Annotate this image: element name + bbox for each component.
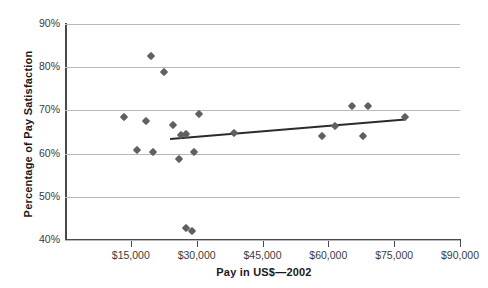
- x-tick-mark: [460, 241, 461, 247]
- y-axis-title: Percentage of Pay Satisfaction: [22, 14, 34, 254]
- y-tick-label: 60%: [20, 147, 60, 159]
- x-tick-label: $45,000: [228, 249, 298, 261]
- y-tick-label: 80%: [20, 60, 60, 72]
- x-tick-label: $75,000: [359, 249, 429, 261]
- x-tick-label: $90,000: [425, 249, 488, 261]
- x-tick-label: $60,000: [293, 249, 363, 261]
- gridline-y: [65, 24, 460, 25]
- x-axis-title: Pay in US$—2002: [0, 266, 488, 278]
- x-tick-mark: [394, 241, 395, 247]
- y-tick-label: 50%: [20, 190, 60, 202]
- x-tick-mark: [131, 241, 132, 247]
- gridline-y: [65, 110, 460, 111]
- x-tick-label: $15,000: [96, 249, 166, 261]
- gridline-y: [65, 154, 460, 155]
- x-tick-mark: [328, 241, 329, 247]
- x-tick-mark: [197, 241, 198, 247]
- gridline-y: [65, 197, 460, 198]
- scatter-chart: Percentage of Pay Satisfaction Pay in US…: [0, 0, 488, 288]
- y-tick-label: 70%: [20, 103, 60, 115]
- y-tick-label: 40%: [20, 233, 60, 245]
- gridline-y: [65, 67, 460, 68]
- x-tick-mark: [263, 241, 264, 247]
- x-tick-label: $30,000: [162, 249, 232, 261]
- y-tick-label: 90%: [20, 17, 60, 29]
